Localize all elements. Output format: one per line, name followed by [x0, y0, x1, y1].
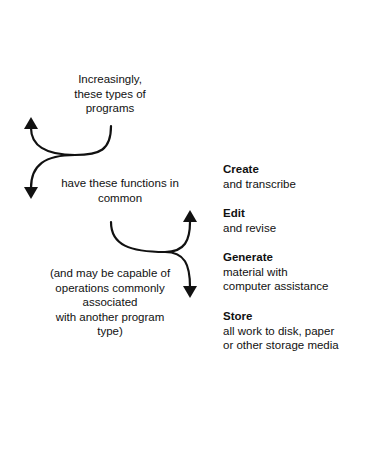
- intro-line: these types of: [60, 87, 160, 102]
- middle-line: have these functions in: [40, 176, 200, 191]
- function-desc: and revise: [223, 221, 276, 236]
- function-title: Edit: [223, 206, 276, 221]
- function-title: Store: [223, 309, 339, 324]
- middle-text: have these functions in common: [40, 176, 200, 205]
- function-desc: all work to disk, paper: [223, 324, 339, 339]
- function-title: Generate: [223, 250, 328, 265]
- intro-line: Increasingly,: [60, 72, 160, 87]
- middle-line: common: [40, 191, 200, 206]
- intro-line: programs: [60, 101, 160, 116]
- split-arrow-1: [31, 126, 111, 155]
- split-arrow-2: [111, 222, 190, 252]
- function-desc: or other storage media: [223, 338, 339, 353]
- note-line: (and may be capable of: [35, 266, 185, 281]
- function-edit: Edit and revise: [223, 206, 276, 235]
- note-text: (and may be capable of operations common…: [35, 266, 185, 339]
- arrow-up-head-1: [24, 117, 38, 129]
- arrow-down-head-1: [24, 187, 38, 199]
- note-line: operations commonly: [35, 281, 185, 296]
- function-desc: computer assistance: [223, 279, 328, 294]
- note-line: type): [35, 324, 185, 339]
- note-line: associated: [35, 295, 185, 310]
- function-title: Create: [223, 162, 296, 177]
- function-desc: material with: [223, 265, 328, 280]
- function-generate: Generate material with computer assistan…: [223, 250, 328, 294]
- arrow-up-head-2: [183, 210, 197, 222]
- function-create: Create and transcribe: [223, 162, 296, 191]
- flow-arrows: [0, 0, 365, 456]
- arrow-down-head-2: [183, 286, 197, 298]
- function-store: Store all work to disk, paper or other s…: [223, 309, 339, 353]
- function-desc: and transcribe: [223, 177, 296, 192]
- intro-text: Increasingly, these types of programs: [60, 72, 160, 116]
- note-line: with another program: [35, 310, 185, 325]
